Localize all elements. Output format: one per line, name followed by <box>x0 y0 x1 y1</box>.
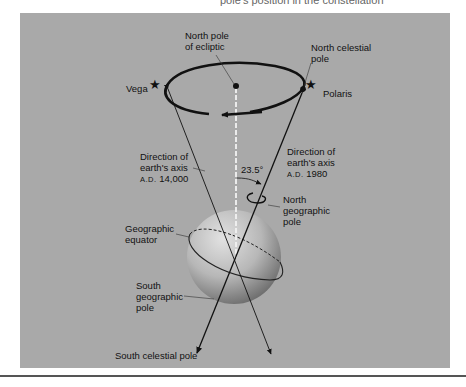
page-rule <box>0 375 466 377</box>
label-line: of ecliptic <box>185 41 229 52</box>
polaris-star-icon: ★ <box>305 77 317 92</box>
label-line: Direction of <box>140 151 188 162</box>
label-line: Geographic <box>125 223 174 234</box>
year-label: 1980 <box>306 168 327 179</box>
label-line: North celestial <box>311 42 371 53</box>
label-line: North pole <box>185 30 229 41</box>
label-line: geographic <box>136 291 183 302</box>
label-polaris: Polaris <box>323 88 352 99</box>
leader-ecliptic <box>216 55 234 84</box>
label-south-geographic-pole: South geographic pole <box>136 280 183 313</box>
label-line: A.D. 14,000 <box>140 173 188 185</box>
label-geographic-equator: Geographic equator <box>125 223 174 245</box>
label-line: geographic <box>283 205 330 216</box>
vega-star-icon: ★ <box>149 77 161 92</box>
label-axis-14000: Direction of earth's axis A.D. 14,000 <box>140 151 188 185</box>
label-line: pole <box>283 216 330 227</box>
label-line: equator <box>125 234 174 245</box>
label-line: Direction of <box>287 146 335 157</box>
label-angle: 23.5° <box>241 164 263 175</box>
label-axis-1980: Direction of earth's axis A.D. 1980 <box>287 146 335 180</box>
era-label: A.D. <box>140 175 157 184</box>
label-north-geographic-pole: North geographic pole <box>283 194 330 227</box>
leader-equator <box>176 234 189 237</box>
leader-north-geo <box>268 205 280 207</box>
label-line: South <box>136 280 183 291</box>
label-north-pole-ecliptic: North pole of ecliptic <box>185 30 229 52</box>
label-line: pole <box>311 53 371 64</box>
label-line: earth's axis <box>287 157 335 168</box>
era-label: A.D. <box>287 170 304 179</box>
label-south-celestial-pole: South celestial pole <box>115 350 197 361</box>
year-label: 14,000 <box>159 173 188 184</box>
angle-arc <box>237 178 261 184</box>
label-north-celestial-pole: North celestial pole <box>311 42 371 64</box>
label-line: pole <box>136 302 183 313</box>
precession-arrow <box>222 112 262 115</box>
label-line: North <box>283 194 330 205</box>
label-line: A.D. 1980 <box>287 168 335 180</box>
precession-diagram: ★ ★ <box>0 0 466 387</box>
spin-arrow <box>247 193 265 203</box>
label-vega: Vega <box>126 83 148 94</box>
label-line: earth's axis <box>140 162 188 173</box>
